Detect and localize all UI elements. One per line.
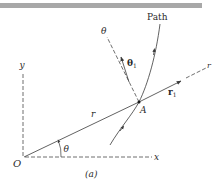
path-arrow-upper <box>154 50 155 55</box>
theta-unit-vector-label: θ1 <box>127 58 137 69</box>
figure-caption: (a) <box>85 169 98 179</box>
point-a-label: A <box>139 105 147 115</box>
theta-axis-dashed <box>107 37 139 102</box>
angle-label: θ <box>64 144 70 154</box>
angle-arc <box>59 141 62 157</box>
top-rule-bar <box>0 3 202 8</box>
path-curve <box>110 24 160 145</box>
radius-label: r <box>91 109 96 119</box>
r-axis-label: r <box>207 61 212 70</box>
r-unit-vector-label: r1 <box>168 87 177 98</box>
path-label: Path <box>147 12 168 22</box>
y-axis-label: y <box>19 60 26 70</box>
polar-coordinates-diagram: y x O r θ Path r r1 θ θ1 A (a) <box>0 0 220 186</box>
x-axis-label: x <box>154 152 159 162</box>
radius-line <box>24 102 139 157</box>
origin-label: O <box>13 158 21 169</box>
r-axis-dashed <box>186 68 206 78</box>
theta-axis-label: θ <box>101 26 107 36</box>
point-a-dot <box>138 101 141 104</box>
